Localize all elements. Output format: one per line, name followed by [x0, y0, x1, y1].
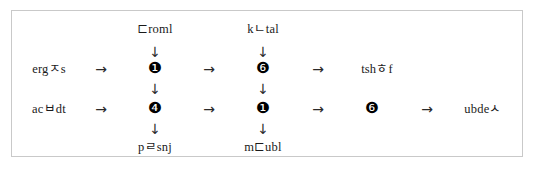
row1-arrow-1: → — [95, 62, 107, 76]
down-arrow-mid-column-2: ↓ — [257, 82, 269, 96]
row1-arrow-2: → — [203, 62, 215, 76]
row2-node-3: ❻ — [365, 101, 379, 117]
row1-label-right: tshㅎf — [361, 63, 393, 76]
row2-arrow-4: → — [421, 102, 433, 116]
diagram-frame: ⊏roml kㄴtal ↓ ↓ ergㅈs → ❶ → ❻ → tshㅎf ↓ … — [11, 10, 523, 157]
row2-arrow-2: → — [203, 102, 215, 116]
row1-node-1: ❶ — [148, 61, 162, 77]
down-arrow-bottom-column-1: ↓ — [149, 122, 161, 136]
row1-label-left: ergㅈs — [32, 63, 66, 76]
top-label-column-2: kㄴtal — [247, 23, 279, 36]
row2-label-right: ubdeㅅ — [464, 103, 501, 116]
row2-arrow-3: → — [312, 102, 324, 116]
row2-arrow-1: → — [95, 102, 107, 116]
row1-node-2: ❻ — [256, 61, 270, 77]
down-arrow-top-column-2: ↓ — [257, 45, 269, 59]
down-arrow-bottom-column-2: ↓ — [257, 122, 269, 136]
row2-node-2: ❶ — [256, 101, 270, 117]
bottom-label-column-1: pㄹsnj — [138, 141, 172, 154]
top-label-column-1: ⊏roml — [137, 23, 172, 36]
row2-node-1: ❹ — [148, 101, 162, 117]
bottom-label-column-2: m⊏ubl — [244, 141, 281, 154]
row1-arrow-3: → — [312, 62, 324, 76]
down-arrow-mid-column-1: ↓ — [149, 82, 161, 96]
down-arrow-top-column-1: ↓ — [149, 45, 161, 59]
row2-label-left: acㅂdt — [32, 103, 66, 116]
